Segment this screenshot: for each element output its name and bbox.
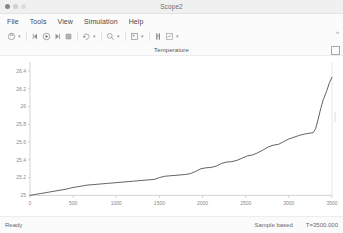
toolbar-separator <box>77 32 78 41</box>
status-bar: Ready Sample based T=3500.000 <box>0 216 343 233</box>
status-time: T=3500.000 <box>306 222 338 228</box>
close-button[interactable] <box>5 4 10 9</box>
signal-selection-icon[interactable] <box>164 30 175 43</box>
maximize-axes-icon[interactable] <box>331 46 340 55</box>
svg-text:3000: 3000 <box>283 200 294 206</box>
plot-area[interactable]: 2525.225.425.625.82626.226.4050010001500… <box>0 56 343 216</box>
svg-text:25.4: 25.4 <box>16 157 26 163</box>
svg-text:2000: 2000 <box>197 200 208 206</box>
chevron-down-icon[interactable]: ▾ <box>18 34 21 39</box>
restore-view-icon[interactable] <box>81 30 92 43</box>
title-bar: Scope2 <box>0 0 343 14</box>
svg-text:25.6: 25.6 <box>16 139 26 145</box>
menu-item-file[interactable]: File <box>7 18 19 25</box>
svg-text:25: 25 <box>20 192 26 198</box>
scope-window: Scope2 File Tools View Simulation Help ▾ <box>0 0 343 233</box>
window-title: Scope2 <box>0 3 343 10</box>
maximize-button[interactable] <box>21 4 26 9</box>
svg-text:500: 500 <box>69 200 78 206</box>
window-controls <box>5 4 26 9</box>
svg-text:26.4: 26.4 <box>16 68 26 74</box>
minimize-button[interactable] <box>13 4 18 9</box>
chevron-down-icon[interactable]: ▾ <box>141 34 144 39</box>
layout-icon[interactable] <box>129 30 140 43</box>
print-icon[interactable] <box>6 30 17 43</box>
plot-title-bar: Temperature <box>0 44 343 56</box>
svg-text:25.2: 25.2 <box>16 174 26 180</box>
menu-bar: File Tools View Simulation Help <box>0 14 343 28</box>
run-icon[interactable] <box>41 30 52 43</box>
chevron-down-icon[interactable]: ▾ <box>93 34 96 39</box>
chevron-down-icon[interactable]: ▾ <box>117 34 120 39</box>
status-sample-mode: Sample based <box>254 222 292 228</box>
svg-text:3500: 3500 <box>326 200 337 206</box>
chevron-down-icon[interactable]: ▾ <box>176 34 179 39</box>
svg-text:2500: 2500 <box>240 200 251 206</box>
stop-icon[interactable] <box>63 30 74 43</box>
menu-item-simulation[interactable]: Simulation <box>84 18 118 25</box>
cursor-measurement-icon[interactable] <box>153 30 164 43</box>
svg-text:25.8: 25.8 <box>16 121 26 127</box>
menu-item-tools[interactable]: Tools <box>30 18 47 25</box>
step-back-icon[interactable] <box>30 30 41 43</box>
toolbar-separator <box>26 32 27 41</box>
svg-text:26.2: 26.2 <box>16 86 26 92</box>
plot-title: Temperature <box>154 47 189 53</box>
toolbar-separator <box>101 32 102 41</box>
toolbar-overflow-button[interactable]: » <box>336 29 339 35</box>
menu-item-help[interactable]: Help <box>129 18 144 25</box>
toolbar: ▾ <box>0 28 343 44</box>
svg-text:26: 26 <box>20 103 26 109</box>
zoom-icon[interactable] <box>105 30 116 43</box>
svg-text:1000: 1000 <box>111 200 122 206</box>
svg-text:0: 0 <box>29 200 32 206</box>
toolbar-separator <box>125 32 126 41</box>
toolbar-separator <box>149 32 150 41</box>
status-right-group: Sample based T=3500.000 <box>254 222 338 228</box>
menu-item-view[interactable]: View <box>58 18 73 25</box>
svg-text:1500: 1500 <box>154 200 165 206</box>
step-forward-icon[interactable] <box>52 30 63 43</box>
status-ready-label: Ready <box>5 222 22 228</box>
temperature-line-chart[interactable]: 2525.225.425.625.82626.226.4050010001500… <box>0 56 343 216</box>
